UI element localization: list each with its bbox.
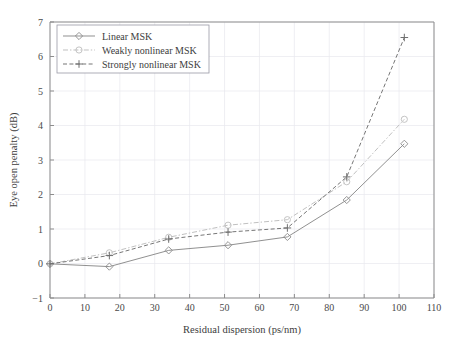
- x-tick-label: 0: [48, 302, 53, 313]
- x-tick-label: 100: [392, 302, 407, 313]
- y-tick-label: 5: [38, 86, 43, 97]
- legend-label: Linear MSK: [102, 31, 153, 42]
- y-tick-label: 7: [38, 17, 43, 28]
- x-tick-label: 110: [427, 302, 442, 313]
- x-tick-label: 90: [359, 302, 369, 313]
- y-tick-label: 2: [38, 189, 43, 200]
- chart-legend[interactable]: Linear MSKWeakly nonlinear MSKStrongly n…: [57, 25, 209, 73]
- legend-label: Weakly nonlinear MSK: [102, 45, 198, 56]
- y-tick-label: 3: [38, 155, 43, 166]
- y-tick-label: 1: [38, 224, 43, 235]
- x-tick-label: 40: [185, 302, 195, 313]
- y-tick-label: −1: [32, 293, 43, 304]
- x-tick-label: 50: [220, 302, 230, 313]
- y-tick-label: 0: [38, 258, 43, 269]
- y-axis-title: Eye open penalty (dB): [8, 112, 20, 207]
- x-axis-title: Residual dispersion (ps/nm): [183, 324, 301, 336]
- x-tick-label: 10: [80, 302, 90, 313]
- chart-figure: 0102030405060708090100110 −101234567 Res…: [0, 0, 452, 347]
- x-tick-label: 30: [150, 302, 160, 313]
- y-tick-label: 4: [38, 120, 43, 131]
- x-tick-label: 70: [289, 302, 299, 313]
- line-chart: 0102030405060708090100110 −101234567 Res…: [0, 0, 452, 347]
- y-tick-label: 6: [38, 51, 43, 62]
- x-tick-label: 20: [115, 302, 125, 313]
- x-tick-label: 60: [254, 302, 264, 313]
- legend-label: Strongly nonlinear MSK: [102, 59, 202, 70]
- x-tick-label: 80: [324, 302, 334, 313]
